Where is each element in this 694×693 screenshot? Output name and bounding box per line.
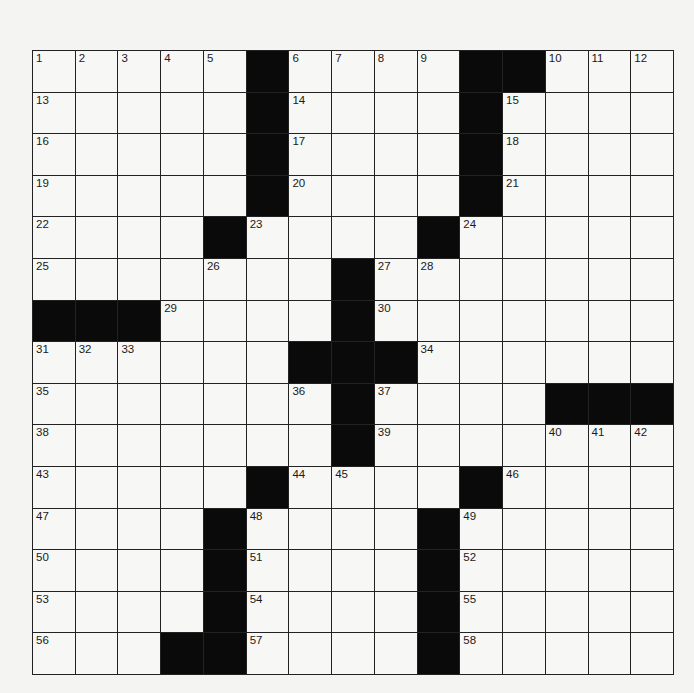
- grid-cell[interactable]: [589, 342, 631, 383]
- grid-cell[interactable]: 1: [33, 51, 75, 92]
- grid-cell[interactable]: 40: [546, 425, 588, 466]
- grid-cell[interactable]: [546, 217, 588, 258]
- grid-cell[interactable]: [631, 509, 673, 550]
- grid-cell[interactable]: [289, 259, 331, 300]
- grid-cell[interactable]: 46: [503, 467, 545, 508]
- grid-cell[interactable]: 17: [289, 134, 331, 175]
- grid-cell[interactable]: 45: [332, 467, 374, 508]
- grid-cell[interactable]: [161, 592, 203, 633]
- grid-cell[interactable]: [589, 176, 631, 217]
- grid-cell[interactable]: [546, 301, 588, 342]
- grid-cell[interactable]: [631, 134, 673, 175]
- grid-cell[interactable]: [375, 217, 417, 258]
- grid-cell[interactable]: [375, 134, 417, 175]
- grid-cell[interactable]: [418, 134, 460, 175]
- grid-cell[interactable]: [204, 425, 246, 466]
- grid-cell[interactable]: 31: [33, 342, 75, 383]
- grid-cell[interactable]: [332, 93, 374, 134]
- grid-cell[interactable]: [161, 259, 203, 300]
- grid-cell[interactable]: [503, 259, 545, 300]
- grid-cell[interactable]: 22: [33, 217, 75, 258]
- grid-cell[interactable]: [161, 217, 203, 258]
- grid-cell[interactable]: [118, 134, 160, 175]
- grid-cell[interactable]: [631, 176, 673, 217]
- grid-cell[interactable]: 51: [247, 550, 289, 591]
- grid-cell[interactable]: 19: [33, 176, 75, 217]
- grid-cell[interactable]: [503, 342, 545, 383]
- grid-cell[interactable]: 43: [33, 467, 75, 508]
- grid-cell[interactable]: [375, 176, 417, 217]
- grid-cell[interactable]: 2: [76, 51, 118, 92]
- grid-cell[interactable]: [161, 176, 203, 217]
- grid-cell[interactable]: 50: [33, 550, 75, 591]
- grid-cell[interactable]: [546, 550, 588, 591]
- grid-cell[interactable]: [589, 259, 631, 300]
- grid-cell[interactable]: 29: [161, 301, 203, 342]
- grid-cell[interactable]: [546, 134, 588, 175]
- grid-cell[interactable]: [546, 93, 588, 134]
- grid-cell[interactable]: [375, 93, 417, 134]
- grid-cell[interactable]: [118, 93, 160, 134]
- grid-cell[interactable]: [161, 342, 203, 383]
- grid-cell[interactable]: [204, 467, 246, 508]
- grid-cell[interactable]: [161, 550, 203, 591]
- grid-cell[interactable]: [418, 467, 460, 508]
- grid-cell[interactable]: [118, 467, 160, 508]
- grid-cell[interactable]: [631, 259, 673, 300]
- grid-cell[interactable]: [460, 342, 502, 383]
- grid-cell[interactable]: [631, 592, 673, 633]
- grid-cell[interactable]: [76, 134, 118, 175]
- grid-cell[interactable]: 21: [503, 176, 545, 217]
- grid-cell[interactable]: [76, 633, 118, 674]
- grid-cell[interactable]: 53: [33, 592, 75, 633]
- grid-cell[interactable]: [118, 633, 160, 674]
- grid-cell[interactable]: 6: [289, 51, 331, 92]
- grid-cell[interactable]: [546, 342, 588, 383]
- grid-cell[interactable]: [161, 509, 203, 550]
- grid-cell[interactable]: [247, 384, 289, 425]
- grid-cell[interactable]: [375, 509, 417, 550]
- grid-cell[interactable]: [247, 342, 289, 383]
- grid-cell[interactable]: 35: [33, 384, 75, 425]
- grid-cell[interactable]: [375, 467, 417, 508]
- grid-cell[interactable]: [418, 176, 460, 217]
- grid-cell[interactable]: 23: [247, 217, 289, 258]
- grid-cell[interactable]: 26: [204, 259, 246, 300]
- grid-cell[interactable]: 3: [118, 51, 160, 92]
- grid-cell[interactable]: [589, 592, 631, 633]
- grid-cell[interactable]: [503, 384, 545, 425]
- grid-cell[interactable]: [503, 217, 545, 258]
- grid-cell[interactable]: [589, 301, 631, 342]
- grid-cell[interactable]: [247, 425, 289, 466]
- grid-cell[interactable]: [375, 592, 417, 633]
- grid-cell[interactable]: [503, 633, 545, 674]
- grid-cell[interactable]: [332, 509, 374, 550]
- grid-cell[interactable]: [589, 550, 631, 591]
- grid-cell[interactable]: 14: [289, 93, 331, 134]
- grid-cell[interactable]: [118, 217, 160, 258]
- grid-cell[interactable]: [247, 301, 289, 342]
- grid-cell[interactable]: [76, 509, 118, 550]
- grid-cell[interactable]: [247, 259, 289, 300]
- grid-cell[interactable]: [631, 217, 673, 258]
- grid-cell[interactable]: 38: [33, 425, 75, 466]
- grid-cell[interactable]: [546, 633, 588, 674]
- grid-cell[interactable]: [76, 384, 118, 425]
- grid-cell[interactable]: [118, 550, 160, 591]
- grid-cell[interactable]: 36: [289, 384, 331, 425]
- grid-cell[interactable]: [204, 384, 246, 425]
- grid-cell[interactable]: [204, 134, 246, 175]
- grid-cell[interactable]: [76, 425, 118, 466]
- grid-cell[interactable]: [589, 509, 631, 550]
- grid-cell[interactable]: [118, 592, 160, 633]
- grid-cell[interactable]: [161, 425, 203, 466]
- grid-cell[interactable]: [161, 384, 203, 425]
- grid-cell[interactable]: [460, 301, 502, 342]
- grid-cell[interactable]: 13: [33, 93, 75, 134]
- grid-cell[interactable]: [204, 176, 246, 217]
- grid-cell[interactable]: [631, 633, 673, 674]
- grid-cell[interactable]: 58: [460, 633, 502, 674]
- grid-cell[interactable]: [460, 425, 502, 466]
- grid-cell[interactable]: [118, 384, 160, 425]
- grid-cell[interactable]: [546, 592, 588, 633]
